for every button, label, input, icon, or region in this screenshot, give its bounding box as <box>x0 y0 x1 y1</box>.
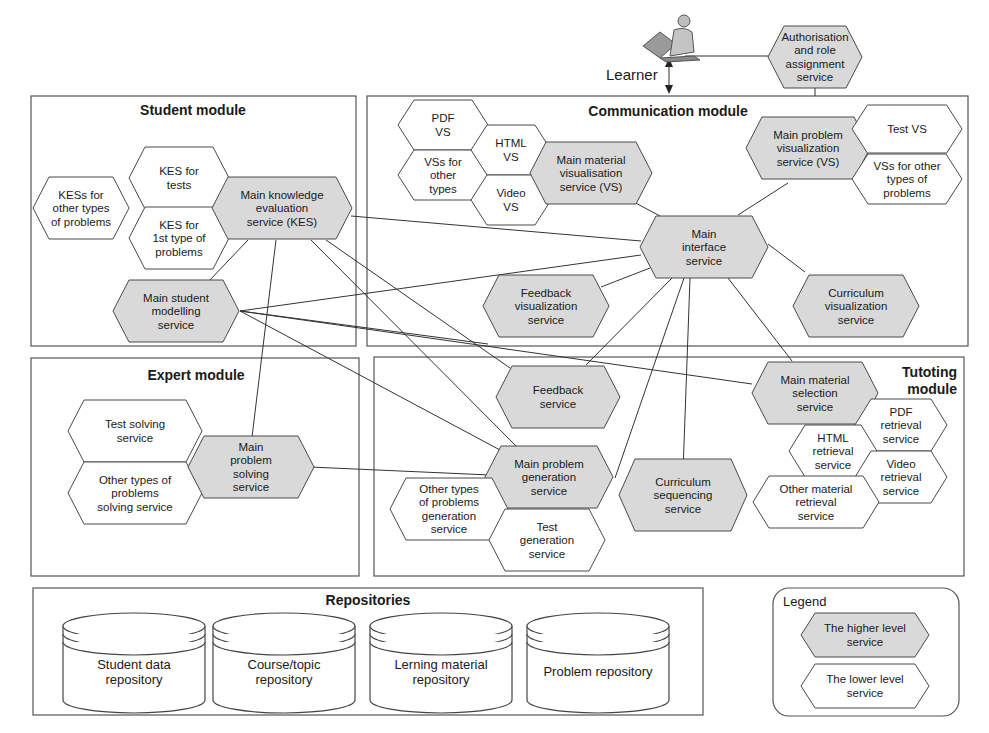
service-label: interface <box>682 241 726 253</box>
pdf-vs: PDFVS <box>398 100 488 150</box>
service-label: generation <box>422 510 476 522</box>
test-generation-service: Testgenerationservice <box>489 509 605 571</box>
vss-other-types: VSs forothertypes <box>398 150 488 200</box>
service-label: KES for <box>159 219 199 231</box>
service-label: tests <box>167 179 192 191</box>
service-label: service <box>883 485 919 497</box>
tutoring-module-title-1: Tutoting <box>902 364 957 380</box>
service-label: Video <box>496 187 525 199</box>
service-label: of problems <box>419 496 479 508</box>
service-label: problem <box>230 454 272 466</box>
service-label: HTML <box>495 137 527 149</box>
service-label: Curriculum <box>828 287 884 299</box>
repository-label: Student data <box>97 657 171 672</box>
main-problem-generation-service: Main problemgenerationservice <box>485 446 613 508</box>
service-label: service (KES) <box>247 216 317 228</box>
service-label: retrieval <box>796 496 837 508</box>
service-label: retrieval <box>813 445 854 457</box>
auth-role-service: Authorisationand roleassignmentservice <box>768 26 862 88</box>
service-label: Other types <box>419 483 479 495</box>
service-label: and role <box>794 44 836 56</box>
service-label: other <box>430 169 456 181</box>
service-label: VS <box>435 126 451 138</box>
main-interface-service: Maininterfaceservice <box>640 216 768 278</box>
curriculum-sequencing-service: Curriculumsequencingservice <box>619 459 747 531</box>
expert-module-title: Expert module <box>147 367 244 383</box>
service-label: service <box>815 459 851 471</box>
service-label: Feedback <box>533 384 584 396</box>
main-problem-solving-service: Mainproblemsolvingservice <box>188 436 314 498</box>
service-label: service <box>117 432 153 444</box>
service-label: Main problem <box>514 458 584 470</box>
service-label: types of <box>887 173 928 185</box>
service-label: service <box>847 636 883 648</box>
service-label: types <box>429 183 457 195</box>
repository-label: Lerning material <box>394 657 487 672</box>
architecture-diagram: Learner Student module Communication mod… <box>0 0 989 733</box>
main-problem-visualization-service: Main problemvisualizationservice (VS) <box>746 117 870 179</box>
service-label: problems <box>111 487 159 499</box>
main-material-selection-service: Main materialselectionservice <box>752 362 878 424</box>
service-label: service <box>540 398 576 410</box>
kes-first-type: KES for1st type ofproblems <box>129 207 229 269</box>
feedback-visualization-service: Feedbackvisualizationservice <box>483 275 609 337</box>
service-label: generation <box>520 534 574 546</box>
repository-cylinder: Course/topicrepository <box>213 613 355 713</box>
service-label: Main knowledge <box>240 189 323 201</box>
service-label: PDF <box>432 112 455 124</box>
service-label: service <box>431 523 467 535</box>
kes-tests: KES fortests <box>129 147 229 209</box>
service-label: service <box>158 319 194 331</box>
service-label: 1st type of <box>152 232 206 244</box>
service-label: Main material <box>780 374 849 386</box>
repositories-title: Repositories <box>326 592 411 608</box>
service-label: KESs for <box>58 189 104 201</box>
service-label: assignment <box>786 58 846 70</box>
service-label: other types <box>53 202 110 214</box>
service-label: Main problem <box>773 129 843 141</box>
service-label: Curriculum <box>655 476 711 488</box>
service-label: Main material <box>556 154 625 166</box>
service-label: Other types of <box>99 474 172 486</box>
main-material-visualisation-service: Main materialvisualisationservice (VS) <box>530 142 652 204</box>
service-label: visualization <box>825 300 888 312</box>
repository-label: repository <box>255 672 313 687</box>
service-label: service <box>798 510 834 522</box>
service-label: solving <box>233 468 269 480</box>
test-vs: Test VS <box>852 105 962 153</box>
service-label: service <box>883 433 919 445</box>
service-label: modelling <box>151 305 200 317</box>
learner-label: Learner <box>606 66 658 83</box>
service-label: problems <box>155 246 203 258</box>
service-label: VS <box>503 151 519 163</box>
service-label: VSs for other <box>873 160 940 172</box>
service-label: service <box>529 548 565 560</box>
service-label: HTML <box>817 432 849 444</box>
service-label: Video <box>886 458 915 470</box>
service-label: generation <box>522 471 576 483</box>
service-label: Main student <box>143 292 210 304</box>
kes-other-types: KESs forother typesof problems <box>33 177 129 239</box>
feedback-service: Feedbackservice <box>496 366 620 428</box>
other-types-problems-generation-service: Other typesof problemsgenerationservice <box>390 478 508 540</box>
service-label: visualization <box>777 142 840 154</box>
legend-higher-level: The higher levelservice <box>801 613 929 657</box>
service-label: Feedback <box>521 287 572 299</box>
main-knowledge-evaluation-service: Main knowledgeevaluationservice (KES) <box>212 177 352 239</box>
service-label: retrieval <box>881 419 922 431</box>
service-label: Test solving <box>105 418 165 430</box>
service-label: visualization <box>515 300 578 312</box>
service-label: Main <box>692 228 717 240</box>
service-label: Test <box>536 521 558 533</box>
service-label: service <box>665 503 701 515</box>
service-label: VSs for <box>424 156 462 168</box>
service-label: service <box>797 71 833 83</box>
service-label: solving service <box>97 501 172 513</box>
service-label: service <box>686 255 722 267</box>
service-label: service <box>847 687 883 699</box>
repository-label: repository <box>412 672 470 687</box>
service-label: Main <box>239 441 264 453</box>
service-label: sequencing <box>654 489 713 501</box>
repository-label: Course/topic <box>248 657 321 672</box>
repository-cylinder: Student datarepository <box>63 613 205 713</box>
